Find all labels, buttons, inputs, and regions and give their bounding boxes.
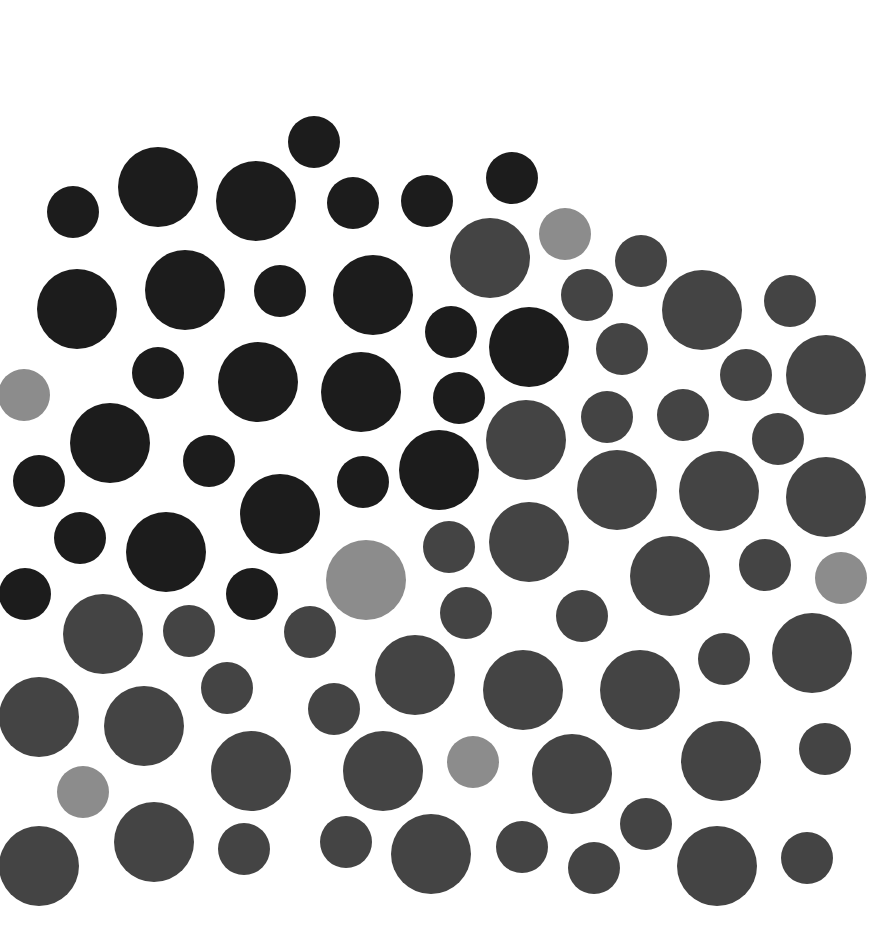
black-circle <box>425 306 477 358</box>
light-circle <box>815 552 867 604</box>
dark-circle <box>561 269 613 321</box>
dark-circle <box>600 650 680 730</box>
black-circle <box>226 568 278 620</box>
dark-circle <box>772 613 852 693</box>
light-circle <box>326 540 406 620</box>
dark-circle <box>657 389 709 441</box>
black-circle <box>126 512 206 592</box>
black-circle <box>337 456 389 508</box>
black-circle <box>183 435 235 487</box>
dark-circle <box>677 826 757 906</box>
black-circle <box>254 265 306 317</box>
dark-circle <box>163 605 215 657</box>
black-circle <box>327 177 379 229</box>
dark-circle <box>201 662 253 714</box>
dark-circle <box>799 723 851 775</box>
dark-circle <box>764 275 816 327</box>
dark-circle <box>211 731 291 811</box>
dark-circle <box>489 502 569 582</box>
black-circle <box>218 342 298 422</box>
dark-circle <box>630 536 710 616</box>
dark-circle <box>308 683 360 735</box>
dark-circle <box>786 335 866 415</box>
dark-circle <box>532 734 612 814</box>
dark-circle <box>423 521 475 573</box>
dark-circle <box>752 413 804 465</box>
dark-circle <box>615 235 667 287</box>
black-circle <box>288 116 340 168</box>
black-circle <box>70 403 150 483</box>
black-circle <box>333 255 413 335</box>
black-circle <box>486 152 538 204</box>
dark-circle <box>483 650 563 730</box>
dark-circle <box>440 587 492 639</box>
dark-circle <box>450 218 530 298</box>
dark-circle <box>391 814 471 894</box>
dark-circle <box>577 450 657 530</box>
black-circle <box>37 269 117 349</box>
dark-circle <box>786 457 866 537</box>
light-circle <box>539 208 591 260</box>
dark-circle <box>284 606 336 658</box>
dark-circle <box>596 323 648 375</box>
black-circle <box>399 430 479 510</box>
black-circle <box>321 352 401 432</box>
dot-pattern-canvas <box>0 0 882 932</box>
black-circle <box>433 372 485 424</box>
dark-circle <box>620 798 672 850</box>
dark-circle <box>496 821 548 873</box>
dark-circle <box>0 677 79 757</box>
black-circle <box>240 474 320 554</box>
light-circle <box>57 766 109 818</box>
black-circle <box>0 568 51 620</box>
dark-circle <box>486 400 566 480</box>
dark-circle <box>581 391 633 443</box>
dark-circle <box>556 590 608 642</box>
black-circle <box>47 186 99 238</box>
black-circle <box>489 307 569 387</box>
dark-circle <box>375 635 455 715</box>
dark-circle <box>681 721 761 801</box>
dark-circle <box>720 349 772 401</box>
black-circle <box>13 455 65 507</box>
dark-circle <box>739 539 791 591</box>
dark-circle <box>104 686 184 766</box>
dark-circle <box>662 270 742 350</box>
black-circle <box>216 161 296 241</box>
dark-circle <box>698 633 750 685</box>
dark-circle <box>0 826 79 906</box>
dark-circle <box>320 816 372 868</box>
black-circle <box>132 347 184 399</box>
dark-circle <box>679 451 759 531</box>
dark-circle <box>781 832 833 884</box>
black-circle <box>54 512 106 564</box>
dark-circle <box>114 802 194 882</box>
dark-circle <box>568 842 620 894</box>
light-circle <box>447 736 499 788</box>
black-circle <box>145 250 225 330</box>
black-circle <box>401 175 453 227</box>
dark-circle <box>343 731 423 811</box>
black-circle <box>118 147 198 227</box>
light-circle <box>0 369 50 421</box>
dark-circle <box>63 594 143 674</box>
dark-circle <box>218 823 270 875</box>
